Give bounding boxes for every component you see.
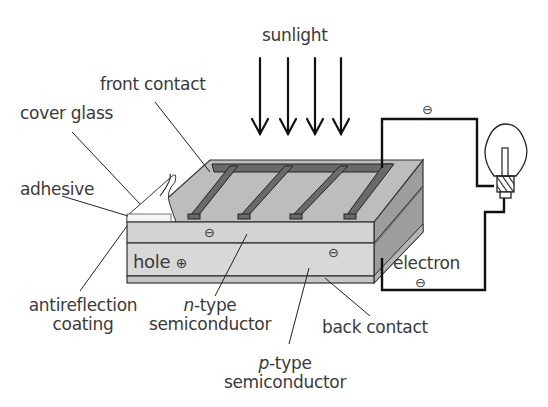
solar-cell-diagram: sunlight front contact cover glass adhes…: [0, 0, 548, 407]
arrow-icon: [252, 58, 268, 134]
label-n-type-semiconductor: n-type semiconductor: [145, 296, 275, 334]
label-front-contact: front contact: [100, 75, 206, 94]
electron-charge-icon: ⊖: [422, 102, 433, 117]
electron-charge-icon: ⊖: [328, 245, 339, 260]
arrow-icon: [307, 58, 323, 134]
label-p-type-line2: semiconductor: [220, 373, 350, 392]
label-electron: electron: [393, 254, 460, 273]
label-p-type-semiconductor: p-type semiconductor: [220, 354, 350, 392]
label-adhesive: adhesive: [20, 180, 94, 199]
label-p-type-line1: p-type: [220, 354, 350, 373]
electron-charge-icon: ⊖: [415, 275, 426, 290]
back-contact-layer: [127, 276, 374, 283]
label-antireflection-coating: antireflection coating: [18, 296, 148, 334]
hole-charge-icon: ⊕: [176, 255, 187, 271]
label-n-type-line2: semiconductor: [145, 315, 275, 334]
n-type-layer: [127, 222, 374, 243]
electron-charge-icon: ⊖: [204, 225, 215, 240]
label-sunlight: sunlight: [262, 26, 328, 45]
label-n-type-line1: n-type: [145, 296, 275, 315]
arrow-icon: [333, 58, 349, 134]
label-hole: hole ⊕: [133, 252, 187, 273]
arrow-icon: [280, 58, 296, 134]
label-antireflection-line1: antireflection: [18, 296, 148, 315]
label-cover-glass: cover glass: [20, 104, 113, 123]
sunlight-arrows: [252, 58, 349, 134]
label-antireflection-line2: coating: [18, 315, 148, 334]
solar-cell-illustration: [0, 0, 548, 407]
label-back-contact: back contact: [322, 318, 428, 337]
